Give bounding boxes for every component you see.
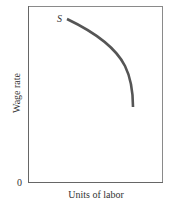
supply-curve — [67, 19, 133, 107]
y-axis-label: Wage rate — [11, 72, 22, 113]
x-axis-label: Units of labor — [68, 189, 124, 200]
plot-frame — [29, 7, 163, 183]
origin-label: 0 — [17, 177, 22, 188]
curve-label-s: S — [57, 13, 62, 24]
labor-supply-chart: S 0 Units of labor Wage rate — [0, 0, 173, 203]
